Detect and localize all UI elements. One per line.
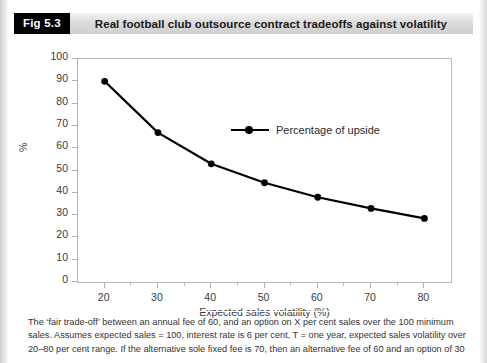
y-axis-tick-label: 40 bbox=[56, 185, 68, 196]
y-axis-tick-mark bbox=[72, 214, 77, 215]
caption-line: 20–80 per cent range. If the alternative… bbox=[28, 343, 470, 356]
y-axis-tick-label: 90 bbox=[56, 73, 68, 84]
line-chart-svg bbox=[78, 59, 451, 282]
data-point-marker bbox=[368, 205, 375, 212]
data-point-marker bbox=[155, 129, 162, 136]
x-axis-minor-tick bbox=[237, 283, 238, 286]
figure-header-bar: Fig 5.3 Real football club outsource con… bbox=[14, 13, 473, 34]
x-axis-tick-label: 40 bbox=[194, 292, 226, 303]
y-axis-tick-label: 10 bbox=[56, 252, 68, 263]
x-axis-tick-label: 60 bbox=[301, 292, 333, 303]
y-axis-tick-mark bbox=[72, 281, 77, 282]
y-axis-tick-mark bbox=[72, 147, 77, 148]
caption-line: sales. Assumes expected sales = 100, int… bbox=[28, 329, 470, 342]
y-axis-tick-label: 80 bbox=[56, 96, 68, 107]
x-axis-tick-mark bbox=[264, 283, 265, 288]
x-axis-tick-mark bbox=[423, 283, 424, 288]
caption-divider bbox=[14, 311, 473, 312]
legend-line-marker-icon bbox=[231, 126, 269, 135]
legend-item-label: Percentage of upside bbox=[276, 124, 380, 136]
x-axis-minor-tick bbox=[290, 283, 291, 286]
series-line bbox=[105, 81, 425, 218]
x-axis-tick-label: 50 bbox=[248, 292, 280, 303]
x-axis-tick-label: 20 bbox=[88, 292, 120, 303]
figure-title: Real football club outsource contract tr… bbox=[95, 18, 447, 30]
y-axis-tick-mark bbox=[72, 192, 77, 193]
y-axis-tick-label: 0 bbox=[62, 274, 68, 285]
y-axis-tick-label: 20 bbox=[56, 229, 68, 240]
x-axis-tick-mark bbox=[104, 283, 105, 288]
data-point-marker bbox=[101, 78, 108, 85]
data-point-marker bbox=[314, 194, 321, 201]
x-axis-minor-tick bbox=[343, 283, 344, 286]
x-axis-tick-mark bbox=[317, 283, 318, 288]
y-axis-tick-label: 70 bbox=[56, 118, 68, 129]
chart-area: % 0102030405060708090100 20304050607080 … bbox=[0, 40, 487, 312]
plot-frame bbox=[77, 58, 452, 283]
data-point-marker bbox=[208, 160, 215, 167]
y-axis-tick-mark bbox=[72, 103, 77, 104]
y-axis-tick-label: 50 bbox=[56, 163, 68, 174]
x-axis-tick-label: 70 bbox=[354, 292, 386, 303]
chart-legend: Percentage of upside bbox=[231, 124, 380, 136]
y-axis-title: % bbox=[17, 143, 29, 152]
figure-caption: The ‘fair trade-off’ between an annual f… bbox=[28, 316, 470, 356]
x-axis-tick-mark bbox=[157, 283, 158, 288]
y-axis-tick-mark bbox=[72, 170, 77, 171]
x-axis-tick-mark bbox=[210, 283, 211, 288]
figure-number-badge: Fig 5.3 bbox=[14, 13, 70, 34]
data-point-marker bbox=[421, 215, 428, 222]
y-axis-tick-mark bbox=[72, 236, 77, 237]
y-axis-tick-label: 60 bbox=[56, 140, 68, 151]
x-axis-tick-mark bbox=[370, 283, 371, 288]
caption-line: The ‘fair trade-off’ between an annual f… bbox=[28, 316, 470, 329]
y-axis-tick-mark bbox=[72, 259, 77, 260]
y-axis-tick-mark bbox=[72, 58, 77, 59]
x-axis-minor-tick bbox=[184, 283, 185, 286]
x-axis-tick-label: 80 bbox=[407, 292, 439, 303]
y-axis-tick-label: 100 bbox=[50, 51, 68, 62]
x-axis-minor-tick bbox=[130, 283, 131, 286]
x-axis-tick-label: 30 bbox=[141, 292, 173, 303]
y-axis-tick-mark bbox=[72, 80, 77, 81]
x-axis-minor-tick bbox=[397, 283, 398, 286]
y-axis-tick-mark bbox=[72, 125, 77, 126]
y-axis-tick-label: 30 bbox=[56, 207, 68, 218]
data-point-marker bbox=[261, 179, 268, 186]
